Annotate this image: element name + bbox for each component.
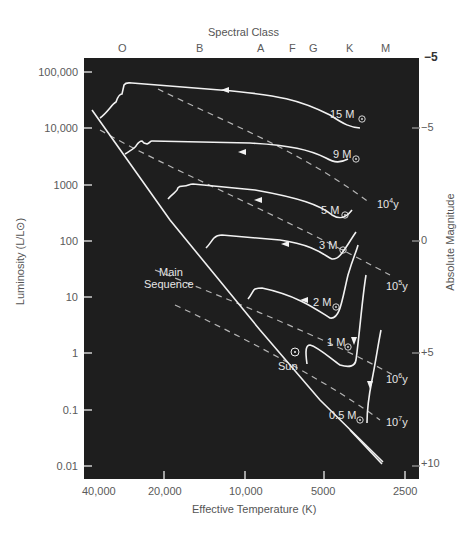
label-9msun: 9 M	[333, 148, 351, 160]
sun-label: Sun	[278, 360, 298, 372]
plot-background	[84, 58, 419, 479]
main-sequence-label-2: Sequence	[144, 278, 194, 290]
label-iso-1e6: 106y	[386, 372, 408, 385]
label-2msun: 2 M	[313, 296, 331, 308]
label-1msun: 1 M	[327, 336, 345, 348]
label-5msun: 5 M	[321, 204, 339, 216]
label-iso-1e4: 104y	[377, 197, 399, 210]
plot-svg: Main Sequence Sun 15 M 9 M 5 M 3 M 2 M 1…	[0, 0, 469, 537]
label-iso-1e5: 105y	[386, 279, 408, 292]
main-sequence-label: Main	[159, 266, 183, 278]
label-15msun: 15 M	[330, 108, 354, 120]
label-05msun: 0.5 M	[329, 409, 357, 421]
label-3msun: 3 M	[319, 239, 337, 251]
label-iso-1e7: 107y	[386, 415, 408, 428]
